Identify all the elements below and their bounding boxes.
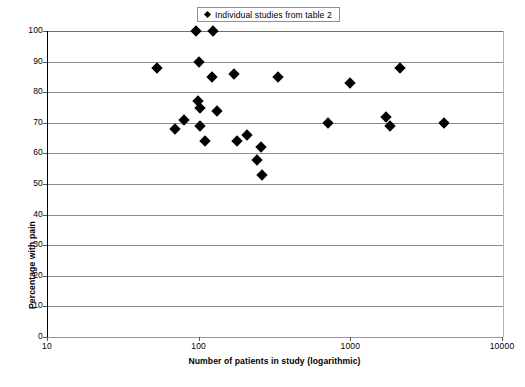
y-tick-mark-30 [43, 245, 47, 246]
y-tick-mark-20 [43, 276, 47, 277]
y-tick-label-80: 80 [9, 87, 43, 96]
data-point [231, 135, 242, 146]
data-point [256, 169, 267, 180]
x-tick-label-10: 10 [24, 341, 70, 351]
y-tick-label-0: 0 [9, 332, 43, 341]
y-tick-mark-70 [43, 123, 47, 124]
legend-diamond-marker-icon [204, 11, 211, 18]
gridline-y-30 [48, 245, 503, 246]
y-tick-label-10: 10 [9, 301, 43, 310]
gridline-y-60 [48, 153, 503, 154]
gridline-y-0 [48, 337, 503, 338]
x-axis-title: Number of patients in study (logarithmic… [47, 356, 502, 366]
data-point [193, 56, 204, 67]
data-point [273, 71, 284, 82]
data-point [206, 71, 217, 82]
x-tick-mark-1000 [350, 337, 351, 341]
x-tick-label-1000: 1000 [327, 341, 373, 351]
y-tick-mark-10 [43, 306, 47, 307]
scatter-chart: Individual studies from table 2 01020304… [0, 0, 525, 387]
gridline-y-20 [48, 276, 503, 277]
y-tick-mark-50 [43, 184, 47, 185]
data-point [241, 129, 252, 140]
legend-label: Individual studies from table 2 [215, 10, 332, 20]
data-point [207, 25, 218, 36]
gridline-y-100 [48, 31, 503, 32]
y-tick-mark-100 [43, 31, 47, 32]
data-point [211, 105, 222, 116]
x-tick-label-10000: 10000 [479, 341, 525, 351]
x-tick-label-100: 100 [176, 341, 222, 351]
chart-legend: Individual studies from table 2 [197, 7, 340, 22]
gridline-y-80 [48, 92, 503, 93]
gridline-y-40 [48, 215, 503, 216]
gridline-y-50 [48, 184, 503, 185]
data-point [256, 142, 267, 153]
y-axis-title-wrapper: Percentage with pain [12, 110, 26, 270]
plot-area [47, 31, 504, 337]
data-point [439, 117, 450, 128]
y-tick-mark-60 [43, 153, 47, 154]
x-tick-mark-10 [47, 337, 48, 341]
data-point [322, 117, 333, 128]
gridline-y-10 [48, 306, 503, 307]
data-point [344, 77, 355, 88]
data-point [252, 154, 263, 165]
gridline-y-90 [48, 62, 503, 63]
gridline-y-70 [48, 123, 503, 124]
data-point [170, 123, 181, 134]
y-tick-mark-40 [43, 215, 47, 216]
x-tick-mark-100 [199, 337, 200, 341]
y-tick-label-100: 100 [9, 26, 43, 35]
x-tick-mark-10000 [502, 337, 503, 341]
y-tick-label-20: 20 [9, 271, 43, 280]
data-point [395, 62, 406, 73]
y-axis-title: Percentage with pain [27, 185, 37, 345]
data-point [151, 62, 162, 73]
data-point [191, 25, 202, 36]
y-tick-mark-80 [43, 92, 47, 93]
y-tick-mark-90 [43, 62, 47, 63]
y-tick-label-90: 90 [9, 57, 43, 66]
data-point [228, 68, 239, 79]
data-point [199, 135, 210, 146]
